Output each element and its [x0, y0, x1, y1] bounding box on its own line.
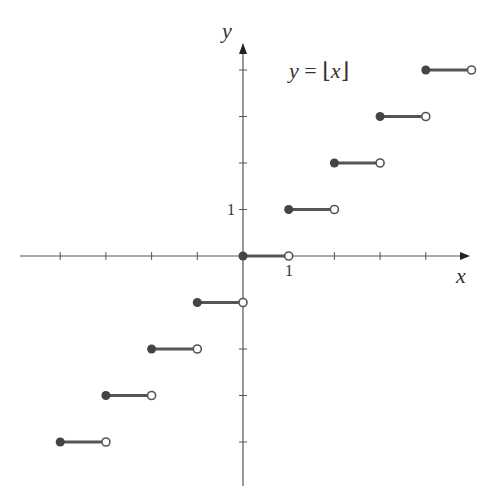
- y-axis-arrow-icon: [239, 43, 247, 54]
- step-segment: [193, 298, 247, 307]
- closed-dot-icon: [101, 391, 110, 400]
- floor-function-plot: [0, 0, 489, 501]
- step-segment: [421, 66, 475, 75]
- title-var: x: [331, 58, 341, 83]
- closed-dot-icon: [193, 298, 202, 307]
- open-dot-icon: [193, 345, 201, 353]
- open-dot-icon: [148, 392, 156, 400]
- y-axis-label: y: [222, 18, 232, 44]
- title-equals: =: [299, 58, 322, 83]
- step-segment: [284, 205, 338, 214]
- closed-dot-icon: [421, 66, 430, 75]
- open-dot-icon: [330, 206, 338, 214]
- title-floor-close: ⌋: [341, 58, 350, 83]
- open-dot-icon: [102, 438, 110, 446]
- step-segment: [330, 159, 384, 168]
- closed-dot-icon: [239, 252, 248, 261]
- axes: [20, 43, 470, 486]
- chart-title: y = ⌊x⌋: [289, 58, 349, 84]
- open-dot-icon: [468, 66, 476, 74]
- step-segment: [239, 252, 293, 261]
- step-segment: [56, 438, 110, 447]
- step-segment: [147, 345, 201, 354]
- closed-dot-icon: [376, 112, 385, 121]
- closed-dot-icon: [284, 205, 293, 214]
- step-segment: [376, 112, 430, 121]
- x-tick-label-1: 1: [285, 262, 293, 280]
- title-floor-open: ⌊: [322, 58, 331, 83]
- closed-dot-icon: [330, 159, 339, 168]
- closed-dot-icon: [56, 438, 65, 447]
- open-dot-icon: [422, 113, 430, 121]
- closed-dot-icon: [147, 345, 156, 354]
- y-tick-label-1: 1: [227, 201, 235, 219]
- x-axis-label: x: [456, 263, 466, 289]
- step-segment: [101, 391, 155, 400]
- open-dot-icon: [239, 299, 247, 307]
- open-dot-icon: [285, 252, 293, 260]
- title-lhs: y: [289, 58, 299, 83]
- open-dot-icon: [376, 159, 384, 167]
- x-axis-arrow-icon: [460, 252, 470, 260]
